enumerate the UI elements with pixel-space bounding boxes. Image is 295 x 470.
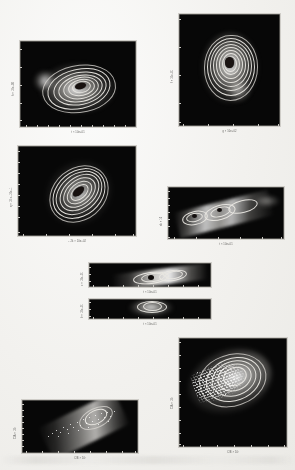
panel-1: t × 10e+01 h × 10e+00 [19,40,137,128]
scan-artefact [0,456,295,464]
panel-5-xlabel: t × 10e+01 [143,292,156,295]
panel-6-xlabel: t × 10e+01 [143,324,156,327]
panel-5-ylabel: c × 10e+01 [82,272,85,286]
panel-8-frame [178,337,288,448]
panel-4-ylabel: dx × 10 [161,217,164,226]
panel-1-plot [20,41,136,127]
panel-7-plot [22,400,138,453]
panel-3-xlabel: − 2k × 10e+02 [68,241,86,244]
panel-1-xlabel: t × 10e+01 [71,132,84,135]
panel-3-frame [17,145,137,237]
panel-8-xlabel: C/B × 10² [227,452,239,455]
panel-5-plot [89,263,211,287]
panel-2-frame [178,13,281,127]
panel-3-ylabel: q × 10 e+10e+1 [11,187,14,207]
panel-4-xlabel: t × 10e+01 [219,244,232,247]
panel-2-xlabel: g × 10e+02 [222,131,236,134]
panel-2-ylabel: f × 10e+01 [172,70,175,83]
panel-8: C/B × 10² C/A × 10² [178,337,288,448]
panel-5-frame [88,262,212,288]
panel-5: t × 10e+01 c × 10e+01 [88,262,212,288]
panel-1-frame [19,40,137,128]
panel-1-ylabel: h × 10e+00 [13,82,16,96]
density-tail [254,195,280,207]
panel-8-ylabel: C/A × 10² [172,397,175,409]
panel-4: t × 10e+01 dx × 10 [167,186,285,240]
panel-4-frame [167,186,285,240]
panel-6-plot [89,299,211,319]
figure-sheet: t × 10e+01 h × 10e+00 [0,0,295,470]
panel-3: − 2k × 10e+02 q × 10 e+10e+1 [17,145,137,237]
panel-8-plot [179,338,287,447]
panel-2: g × 10e+02 f × 10e+01 [178,13,281,127]
panel-4-plot [168,187,284,239]
panel-7-frame [21,399,139,454]
panel-7-ylabel: C/A × 10² [15,427,18,439]
panel-6-ylabel: b × 10e+01 [82,304,85,318]
panel-6: t × 10e+01 b × 10e+01 [88,298,212,320]
panel-7: C/B × 10² C/A × 10² [21,399,139,454]
panel-3-plot [18,146,136,236]
panel-2-plot [179,14,280,126]
panel-6-frame [88,298,212,320]
